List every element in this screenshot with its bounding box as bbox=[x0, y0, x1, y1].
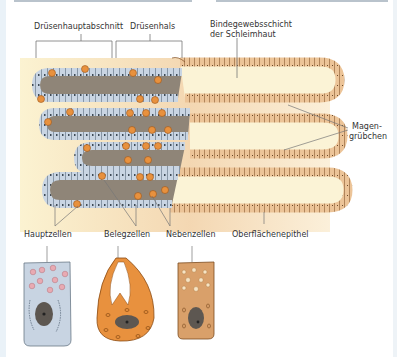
gastric-glands bbox=[36, 72, 190, 204]
label-bindegewebsschicht-line2: der Schleimhaut bbox=[210, 30, 276, 40]
label-druesenhauptabschnitt: Drüsenhauptabschnitt bbox=[34, 22, 123, 32]
parietal-cell-illustration bbox=[97, 258, 154, 341]
label-druesenhals: Drüsenhals bbox=[130, 22, 175, 32]
label-magen-line1: Magen- bbox=[352, 122, 382, 132]
label-hauptzellen: Hauptzellen bbox=[24, 230, 72, 240]
chief-cell-illustration bbox=[24, 262, 71, 346]
gastric-mucosa-diagram: Drüsenhauptabschnitt Drüsenhals Bindegew… bbox=[0, 0, 397, 357]
label-nebenzellen: Nebenzellen bbox=[166, 230, 216, 240]
label-belegzellen: Belegzellen bbox=[104, 230, 150, 240]
label-magen-line2: grübchen bbox=[349, 132, 387, 142]
gastric-pits bbox=[170, 58, 348, 209]
label-oberflaechenepithel: Oberflächenepithel bbox=[232, 230, 309, 240]
histology-illustration bbox=[0, 0, 397, 357]
label-bindegewebsschicht-line1: Bindegewebsschicht bbox=[210, 20, 292, 30]
mucous-neck-cell-illustration bbox=[178, 262, 214, 339]
